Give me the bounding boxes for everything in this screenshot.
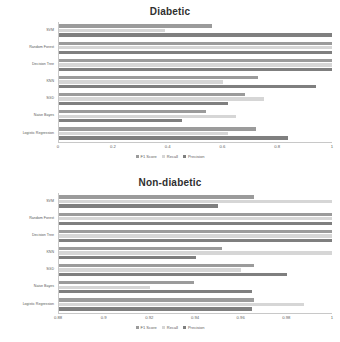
bar-row	[59, 307, 332, 310]
bar-f1[interactable]	[59, 298, 254, 301]
bar-precision[interactable]	[59, 256, 196, 259]
bar-precision[interactable]	[59, 273, 287, 276]
x-axis-tick-label: 0.92	[145, 315, 153, 320]
bar-precision[interactable]	[59, 222, 332, 225]
bar-recall[interactable]	[59, 303, 304, 306]
bar-recall[interactable]	[59, 29, 165, 32]
bar-f1[interactable]	[59, 264, 254, 267]
legend-swatch-icon	[136, 326, 140, 330]
bar-f1[interactable]	[59, 213, 332, 216]
bar-recall[interactable]	[59, 46, 332, 49]
bar-recall[interactable]	[59, 97, 264, 100]
bar-f1[interactable]	[59, 59, 332, 62]
bar-recall[interactable]	[59, 132, 228, 135]
bar-precision[interactable]	[59, 119, 182, 122]
x-axis-tick-label: 0.94	[191, 315, 199, 320]
bar-f1[interactable]	[59, 110, 206, 113]
bar-row	[59, 80, 332, 83]
bar-recall[interactable]	[59, 80, 223, 83]
legend-label: Recall	[167, 325, 178, 330]
bar-precision[interactable]	[59, 85, 316, 88]
bar-recall[interactable]	[59, 115, 236, 118]
bar-f1[interactable]	[59, 42, 332, 45]
bar-f1[interactable]	[59, 195, 254, 198]
category-label: Random Forest	[0, 39, 57, 56]
bar-row	[59, 303, 332, 306]
legend-item-f1[interactable]: F1 Score	[136, 154, 157, 159]
bar-precision[interactable]	[59, 290, 252, 293]
x-axis-line	[58, 313, 332, 314]
bar-precision[interactable]	[59, 68, 332, 71]
bar-precision[interactable]	[59, 33, 332, 36]
bar-f1[interactable]	[59, 76, 258, 79]
bar-recall[interactable]	[59, 251, 332, 254]
bar-recall[interactable]	[59, 217, 332, 220]
category-label: Decision Tree	[0, 227, 57, 244]
bar-row	[59, 298, 332, 301]
bar-precision[interactable]	[59, 307, 252, 310]
legend-item-recall[interactable]: Recall	[162, 325, 178, 330]
bar-row	[59, 93, 332, 96]
bar-recall[interactable]	[59, 286, 150, 289]
x-axis-tick-label: 0.4	[165, 144, 171, 149]
category-label: SVM	[0, 22, 57, 39]
bar-row	[59, 290, 332, 293]
plot-wrapper: SVMRandom ForestDecision TreeKNNSGDNaive…	[0, 193, 340, 313]
bar-group	[59, 22, 332, 39]
bar-precision[interactable]	[59, 102, 228, 105]
bar-f1[interactable]	[59, 24, 212, 27]
legend-label: F1 Score	[141, 154, 157, 159]
bar-group	[59, 262, 332, 279]
plot-area	[58, 22, 332, 142]
legend-item-recall[interactable]: Recall	[162, 154, 178, 159]
bar-f1[interactable]	[59, 127, 256, 130]
x-axis-tick-label: 0.98	[282, 315, 290, 320]
bar-row	[59, 51, 332, 54]
x-axis-tick-label: 0.2	[110, 144, 116, 149]
legend-item-f1[interactable]: F1 Score	[136, 325, 157, 330]
bar-f1[interactable]	[59, 281, 194, 284]
bar-recall[interactable]	[59, 63, 332, 66]
bar-row	[59, 200, 332, 203]
category-axis-labels: SVMRandom ForestDecision TreeKNNSGDNaive…	[0, 22, 57, 142]
bar-row	[59, 59, 332, 62]
bar-recall[interactable]	[59, 200, 332, 203]
category-label: Logistic Regression	[0, 125, 57, 142]
bar-precision[interactable]	[59, 204, 218, 207]
bar-precision[interactable]	[59, 51, 332, 54]
bar-group	[59, 91, 332, 108]
bar-row	[59, 234, 332, 237]
bar-precision[interactable]	[59, 239, 332, 242]
bar-f1[interactable]	[59, 230, 332, 233]
bar-group	[59, 56, 332, 73]
bar-f1[interactable]	[59, 93, 245, 96]
bar-group	[59, 296, 332, 313]
bar-row	[59, 222, 332, 225]
category-label: KNN	[0, 73, 57, 90]
bar-row	[59, 256, 332, 259]
bar-row	[59, 273, 332, 276]
bar-row	[59, 97, 332, 100]
legend-item-precision[interactable]: Precision	[183, 325, 204, 330]
bar-row	[59, 68, 332, 71]
legend-label: Precision	[188, 154, 204, 159]
bar-group	[59, 39, 332, 56]
x-axis-tick-label: 1	[331, 315, 333, 320]
x-axis-ticks: 00.20.40.60.81	[58, 144, 332, 154]
bar-f1[interactable]	[59, 247, 222, 250]
legend-swatch-icon	[162, 326, 166, 330]
bar-row	[59, 281, 332, 284]
category-label: SGD	[0, 262, 57, 279]
bar-precision[interactable]	[59, 136, 288, 139]
bar-row	[59, 264, 332, 267]
bar-recall[interactable]	[59, 268, 241, 271]
chart-legend: F1 ScoreRecallPrecision	[0, 154, 340, 159]
legend-item-precision[interactable]: Precision	[183, 154, 204, 159]
bar-row	[59, 286, 332, 289]
bar-row	[59, 247, 332, 250]
bar-row	[59, 24, 332, 27]
legend-label: F1 Score	[141, 325, 157, 330]
bar-row	[59, 119, 332, 122]
bar-recall[interactable]	[59, 234, 332, 237]
bar-row	[59, 251, 332, 254]
